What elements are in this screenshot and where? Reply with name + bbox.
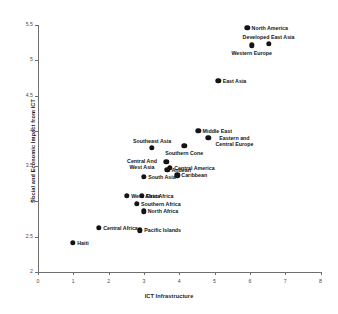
data-point-label: Southeast Asia [133, 137, 171, 143]
y-tick-mark [35, 60, 38, 61]
x-tick-mark [38, 272, 39, 275]
x-tick-label: 3 [142, 279, 145, 284]
x-tick-label: 7 [284, 279, 287, 284]
x-tick-label: 5 [213, 279, 216, 284]
data-point-marker [181, 143, 186, 148]
data-point-marker [124, 193, 129, 198]
scatter-plot-figure: 012345678 22.533.544.555.5 North America… [0, 0, 338, 314]
x-tick-mark [215, 272, 216, 275]
plot-area: 012345678 22.533.544.555.5 North America… [0, 0, 338, 314]
data-point-label: Developed East Asia [243, 34, 295, 40]
x-tick-mark [179, 272, 180, 275]
data-point-label: Central And West Asia [122, 158, 162, 171]
y-tick-mark [35, 237, 38, 238]
data-point-marker [266, 41, 271, 46]
data-point-marker [70, 240, 75, 245]
x-tick-label: 4 [178, 279, 181, 284]
y-tick-label: 2 [30, 269, 33, 274]
y-tick-label: 5 [30, 58, 33, 63]
data-point-label: Pacific Islands [144, 227, 181, 233]
x-tick-label: 2 [107, 279, 110, 284]
data-point-marker [137, 228, 142, 233]
data-point-label: South Asia [148, 174, 175, 180]
x-tick-mark [321, 272, 322, 275]
data-point-marker [249, 43, 254, 48]
y-axis-line [38, 25, 39, 273]
data-point-label: North America [252, 25, 288, 31]
data-point-label: Caribbean [181, 172, 207, 178]
data-point-label: North Africa [148, 208, 178, 214]
data-point-marker [141, 174, 146, 179]
x-tick-label: 1 [72, 279, 75, 284]
data-point-label: East Asia [223, 78, 247, 84]
data-point-marker [196, 128, 201, 133]
x-axis-title: ICT Infrastructure [0, 293, 338, 299]
data-point-label: Middle East [203, 128, 232, 134]
data-point-label: Eastern and Central Europe [212, 134, 256, 147]
x-tick-mark [109, 272, 110, 275]
data-point-marker [149, 145, 154, 150]
data-point-marker [245, 25, 250, 30]
y-axis-title: Social and Economic Impact from ICT [30, 66, 36, 236]
data-point-marker [206, 135, 211, 140]
data-point-marker [165, 167, 170, 172]
data-point-marker [134, 201, 139, 206]
x-tick-label: 8 [319, 279, 322, 284]
x-tick-mark [250, 272, 251, 275]
data-point-marker [216, 78, 221, 83]
data-point-label: Southern Africa [141, 200, 181, 206]
y-tick-mark [35, 25, 38, 26]
data-point-marker [163, 159, 168, 164]
data-point-label: Haiti [77, 240, 88, 246]
x-tick-mark [73, 272, 74, 275]
data-point-marker [141, 209, 146, 214]
data-point-label: Southern Cone [165, 150, 203, 156]
data-point-label: East Africa [146, 193, 173, 199]
data-point-label: Western Europe [231, 50, 272, 56]
x-tick-label: 0 [37, 279, 40, 284]
data-point-marker [96, 225, 101, 230]
x-tick-mark [144, 272, 145, 275]
x-tick-mark [285, 272, 286, 275]
y-tick-mark [35, 272, 38, 273]
x-tick-label: 6 [248, 279, 251, 284]
data-point-label: Central Africa [103, 224, 138, 230]
y-tick-label: 5.5 [26, 22, 33, 27]
